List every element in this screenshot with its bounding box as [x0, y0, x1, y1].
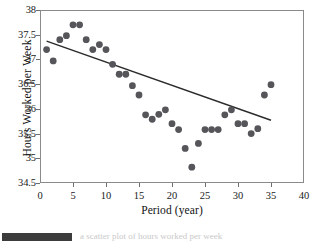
x-tick-mark: [139, 183, 140, 187]
x-tick-label: 10: [91, 190, 121, 201]
x-tick-label: 15: [124, 190, 154, 201]
x-tick-mark: [106, 183, 107, 187]
y-tick-mark: [36, 109, 40, 110]
x-tick-label: 0: [25, 190, 55, 201]
figure-scatter-hours-worked: 34.53535.53636.53737.538 051015202530354…: [0, 0, 316, 248]
plot-area: [40, 10, 304, 183]
x-tick-mark: [271, 183, 272, 187]
x-tick-mark: [205, 183, 206, 187]
y-tick-mark: [36, 59, 40, 60]
y-tick-mark: [36, 10, 40, 11]
x-tick-label: 20: [157, 190, 187, 201]
x-tick-label: 40: [289, 190, 316, 201]
y-tick-mark: [36, 183, 40, 184]
y-axis-title: Hours Worked per Week: [21, 13, 33, 183]
x-tick-label: 30: [223, 190, 253, 201]
y-tick-mark: [36, 35, 40, 36]
y-tick-mark: [36, 84, 40, 85]
x-tick-mark: [238, 183, 239, 187]
y-tick-mark: [36, 134, 40, 135]
x-tick-label: 5: [58, 190, 88, 201]
y-tick-mark: [36, 158, 40, 159]
x-axis-title: Period (year): [40, 204, 304, 216]
x-tick-mark: [73, 183, 74, 187]
x-tick-mark: [172, 183, 173, 187]
x-tick-label: 35: [256, 190, 286, 201]
x-tick-label: 25: [190, 190, 220, 201]
caption-text: a scatter plot of hours worked per week: [80, 231, 312, 242]
caption-bar: [2, 233, 72, 241]
